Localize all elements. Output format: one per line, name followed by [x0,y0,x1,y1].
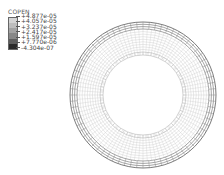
contour-plot [0,0,224,175]
